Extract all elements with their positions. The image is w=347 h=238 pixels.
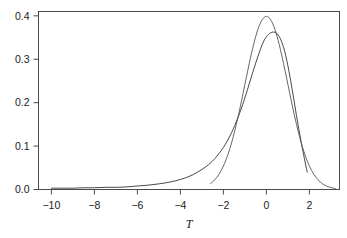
x-tick-label: 0 (263, 199, 269, 211)
x-tick-label: 2 (306, 199, 312, 211)
y-tick-label: 0.2 (15, 96, 30, 108)
y-tick-label: 0.3 (15, 53, 30, 65)
x-tick-label: −10 (42, 199, 60, 211)
y-tick-label: 0.0 (15, 183, 30, 195)
density-plot-figure: −10−8−6−4−202 0.00.10.20.30.4 T (0, 0, 347, 238)
y-tick-label: 0.1 (15, 140, 30, 152)
x-tick-label: −6 (131, 199, 143, 211)
y-tick-label: 0.4 (15, 10, 30, 22)
x-tick-label: −2 (217, 199, 229, 211)
x-tick-label: −8 (88, 199, 100, 211)
x-tick-label: −4 (174, 199, 186, 211)
